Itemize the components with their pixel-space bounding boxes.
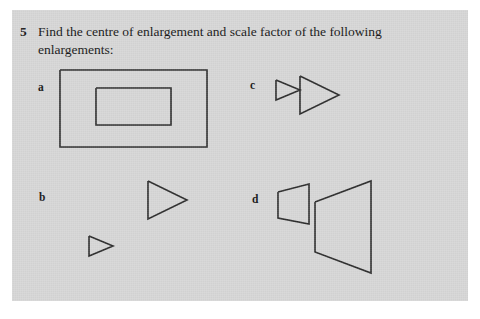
large-triangle [148, 181, 187, 219]
question-text: Find the centre of enlargement and scale… [38, 23, 408, 59]
small-triangle [276, 80, 300, 100]
textbook-page: 5 Find the centre of enlargement and sca… [12, 10, 468, 301]
figure-label-c: c [250, 79, 255, 91]
large-trapezoid [315, 181, 371, 273]
figure-b-large [124, 181, 172, 276]
figure-label-d: d [252, 193, 258, 205]
large-triangle [300, 76, 339, 114]
figure-d [278, 181, 376, 277]
figure-label-b: b [39, 191, 45, 203]
outer-rectangle [60, 70, 207, 147]
small-triangle [89, 236, 113, 256]
figure-b [89, 232, 113, 274]
question-number: 5 [20, 24, 27, 40]
figure-a [60, 70, 210, 150]
small-trapezoid [278, 184, 309, 224]
inner-rectangle [96, 88, 171, 125]
figure-label-a: a [38, 81, 44, 93]
figure-c [276, 76, 346, 118]
